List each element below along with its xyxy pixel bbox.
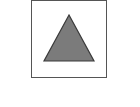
triangle-icon xyxy=(44,15,94,61)
triangle-shape xyxy=(0,0,140,107)
